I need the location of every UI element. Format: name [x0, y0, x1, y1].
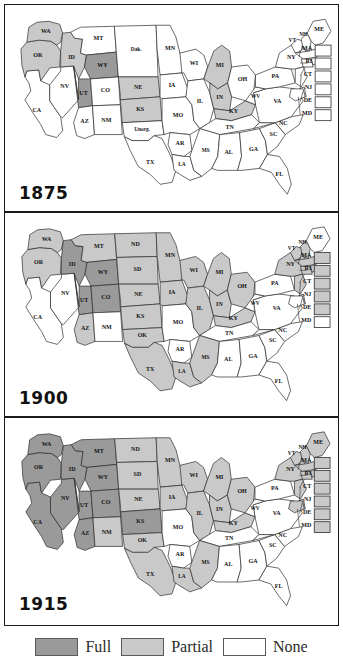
inset-label-ct: CT [303, 278, 311, 284]
state-label-va: VA [273, 98, 282, 104]
inset-label-ma: MA [301, 252, 312, 258]
state-label-nm: NM [102, 323, 112, 329]
inset-box-de [315, 97, 331, 108]
inset-label-de: DE [303, 303, 311, 309]
state-label-oh: OH [237, 488, 247, 494]
state-label-va: VA [273, 304, 282, 310]
state-label-pa: PA [271, 485, 279, 491]
state-label-or: OR [34, 259, 44, 265]
inset-label-ma: MA [302, 45, 313, 51]
state-label-me: ME [314, 26, 324, 32]
state-label-id: ID [69, 261, 76, 267]
state-label-mt: MT [94, 448, 104, 454]
state-label-mo: MO [173, 318, 184, 324]
state-label-il: IL [196, 510, 202, 516]
state-label-ut: UT [80, 296, 88, 302]
state-label-ny: NY [286, 261, 295, 267]
state-label-pa: PA [271, 280, 279, 286]
state-label-al: AL [224, 561, 232, 567]
state-label-vt: VT [289, 37, 297, 43]
state-label-mi: MI [216, 62, 225, 68]
state-label-nd: ND [131, 240, 140, 246]
map-canvas-1875: WAORCANVIDMTWYUTCOAZNMDak.NEKSUnorg.TXMN… [5, 5, 338, 211]
suffrage-map-figure: WAORCANVIDMTWYUTCOAZNMDak.NEKSUnorg.TXMN… [0, 0, 343, 668]
state-label-ut: UT [80, 502, 88, 508]
inset-label-de: DE [304, 97, 312, 103]
inset-label-ct: CT [304, 71, 312, 77]
map-panel-stack: WAORCANVIDMTWYUTCOAZNMDak.NEKSUnorg.TXMN… [4, 4, 339, 626]
state-label-nh: NH [298, 238, 307, 244]
state-label-wi: WI [190, 267, 199, 273]
inset-label-md: MD [302, 110, 313, 116]
state-label-ar: AR [176, 346, 185, 352]
inset-box-ct [314, 278, 330, 289]
state-label-ar: AR [176, 551, 185, 557]
state-label-ny: NY [286, 466, 295, 472]
inset-box-de [314, 303, 330, 314]
state-label-tn: TN [225, 124, 234, 130]
us-map-svg-1915: WAORCANVIDMTWYUTCOAZNMNDSDNEKSOKTXMNIAMO… [5, 418, 338, 622]
legend: Full Partial None [0, 630, 343, 664]
state-label-ut: UT [79, 90, 87, 96]
inset-box-ma [315, 45, 331, 56]
legend-swatch-partial [121, 638, 164, 656]
state-label-vt: VT [288, 450, 296, 456]
state-label-wy: WY [98, 269, 109, 275]
state-label-co: CO [101, 87, 110, 93]
legend-label-partial: Partial [171, 638, 213, 656]
state-label-mn: MN [165, 252, 176, 258]
map-canvas-1900: WAORCANVIDMTWYUTCOAZNMNDSDNEKSOKTXMNIAMO… [5, 213, 338, 417]
state-label-nm: NM [102, 529, 112, 535]
inset-label-de: DE [303, 509, 311, 515]
inset-label-nj: NJ [304, 496, 311, 502]
state-label-ca: CA [33, 313, 42, 319]
state-label-mn: MN [165, 457, 176, 463]
map-canvas-1915: WAORCANVIDMTWYUTCOAZNMNDSDNEKSOKTXMNIAMO… [5, 418, 338, 622]
inset-label-ri: RI [305, 58, 312, 64]
state-label-mo: MO [173, 524, 184, 530]
state-label-al: AL [224, 356, 232, 362]
state-label-ks: KS [136, 106, 145, 112]
state-label-tx: TX [146, 366, 155, 372]
state-label-sc: SC [269, 337, 277, 343]
state-label-wa: WA [42, 235, 52, 241]
state-label-or: OR [34, 464, 44, 470]
state-label-ky: KY [229, 314, 239, 320]
state-label-nc: NC [279, 120, 288, 126]
state-label-nc: NC [278, 326, 287, 332]
state-label-wa: WA [42, 441, 52, 447]
state-label-ky: KY [229, 108, 239, 114]
state-label-al: AL [224, 149, 232, 155]
state-label-ga: GA [248, 353, 258, 359]
state-label-ar: AR [176, 140, 185, 146]
state-label-ne: NE [134, 84, 142, 90]
inset-box-nj [314, 496, 330, 507]
legend-item-none: None [223, 638, 308, 656]
state-label-az: AZ [81, 530, 89, 536]
state-label-mt: MT [94, 242, 104, 248]
state-label-ky: KY [229, 520, 239, 526]
legend-swatch-none [223, 638, 266, 656]
state-label-ia: IA [169, 289, 176, 295]
state-label-nh: NH [298, 444, 307, 450]
state-label-oh: OH [238, 76, 248, 82]
state-label-mi: MI [215, 269, 224, 275]
inset-label-ct: CT [303, 483, 311, 489]
state-label-tn: TN [225, 330, 234, 336]
state-label-fl: FL [275, 171, 283, 177]
state-label-me: ME [313, 233, 323, 239]
inset-label-ri: RI [305, 265, 312, 271]
state-label-wy: WY [97, 62, 108, 68]
state-label-az: AZ [81, 324, 89, 330]
state-label-nh: NH [299, 31, 308, 37]
map-panel-1900: WAORCANVIDMTWYUTCOAZNMNDSDNEKSOKTXMNIAMO… [5, 211, 338, 417]
state-label-in: IN [216, 300, 223, 306]
state-label-nc: NC [278, 532, 287, 538]
state-label-pa: PA [272, 73, 280, 79]
state-label-nv: NV [61, 289, 70, 295]
inset-box-md [314, 522, 330, 533]
state-label-id: ID [69, 466, 76, 472]
inset-box-ri [314, 265, 330, 276]
state-label-ks: KS [136, 312, 145, 318]
map-panel-1875: WAORCANVIDMTWYUTCOAZNMDak.NEKSUnorg.TXMN… [5, 5, 338, 211]
